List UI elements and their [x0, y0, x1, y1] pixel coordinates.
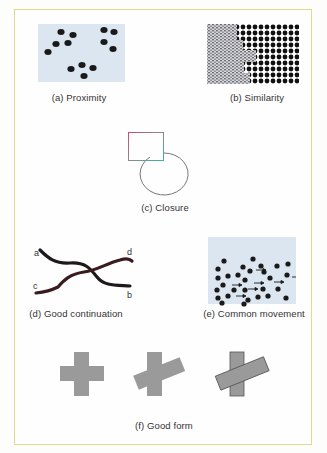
cross-shape-tilted	[133, 352, 185, 396]
good-form-illustration	[0, 0, 327, 453]
caption-good-form: (f) Good form	[135, 420, 193, 431]
cross-shape-plus	[60, 352, 104, 396]
overlapping-rectangles	[215, 352, 269, 396]
